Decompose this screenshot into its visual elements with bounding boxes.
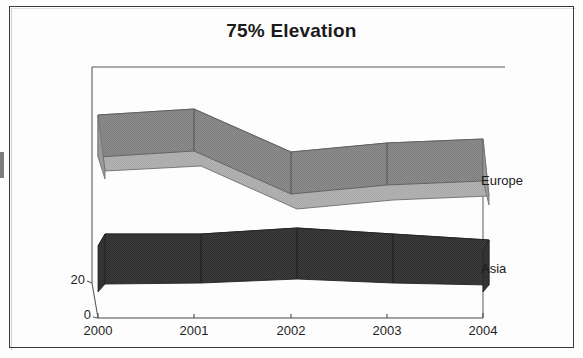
category-tick-marks [98, 313, 483, 318]
x-tick-2000: 2000 [74, 323, 122, 338]
chart-screenshot: 75% Elevation [0, 0, 583, 358]
x-tick-2004: 2004 [459, 323, 507, 338]
asia-left-cap [98, 234, 105, 292]
series-area-asia [98, 228, 489, 292]
x-tick-2001: 2001 [170, 323, 218, 338]
depth-axis-line [92, 283, 98, 318]
y-tick-20: 20 [51, 272, 85, 287]
series-label-asia: Asia [481, 261, 506, 276]
x-tick-2002: 2002 [267, 323, 315, 338]
x-tick-2003: 2003 [363, 323, 411, 338]
series-area-europe [98, 109, 489, 209]
y-tick-0: 0 [57, 307, 91, 322]
europe-front-wall [98, 109, 483, 194]
series-label-europe: Europe [481, 173, 523, 188]
